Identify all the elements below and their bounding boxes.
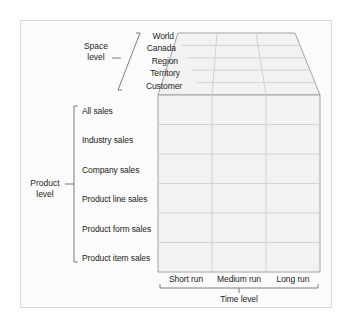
time-member-long-run: Long run — [266, 274, 320, 284]
product-member-industry-sales: Industry sales — [82, 135, 133, 145]
product-member-all-sales: All sales — [82, 106, 113, 116]
cube-front-face — [158, 95, 320, 272]
top-face-surface — [158, 33, 320, 95]
time-level-bracket — [160, 284, 318, 293]
space-member-region: Region — [98, 56, 178, 66]
product-level-group-label-line1: Product — [26, 178, 64, 189]
time-member-medium-run: Medium run — [212, 274, 266, 284]
space-member-world: World — [94, 31, 174, 41]
product-member-product-item-sales: Product item sales — [82, 253, 150, 263]
figure-canvas: Space level World Canada Region Territor… — [0, 0, 352, 328]
product-member-company-sales: Company sales — [82, 165, 139, 175]
product-member-product-form-sales: Product form sales — [82, 224, 151, 234]
space-member-canada: Canada — [96, 43, 176, 53]
product-bracket-stem — [74, 106, 78, 262]
product-member-product-line-sales: Product line sales — [82, 194, 147, 204]
product-level-group-label-line2: level — [26, 189, 64, 200]
space-member-customer: Customer — [102, 81, 182, 91]
time-level-group-label: Time level — [199, 294, 279, 304]
time-member-short-run: Short run — [159, 274, 213, 284]
space-member-territory: Territory — [100, 68, 180, 78]
product-level-bracket — [65, 106, 78, 262]
product-level-group-label: Product level — [26, 178, 64, 200]
time-bracket-stem — [160, 284, 318, 288]
cube-top-face — [158, 33, 320, 95]
